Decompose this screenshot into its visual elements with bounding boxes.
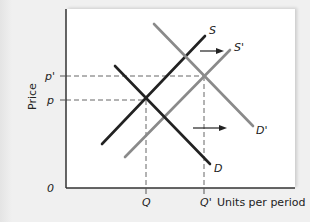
label-p-prime: p' <box>44 70 55 83</box>
label-q-prime: Q' <box>200 196 212 209</box>
x-axis-title: Units per period <box>217 196 305 209</box>
supply-shift-arrow-icon <box>200 48 224 54</box>
label-d: D <box>214 162 222 175</box>
label-s: S <box>209 24 216 37</box>
label-p: p <box>46 94 54 107</box>
label-s-prime: S' <box>234 41 244 54</box>
label-q: Q <box>142 196 151 209</box>
label-origin: 0 <box>47 182 54 195</box>
y-axis-title: Price <box>26 83 39 110</box>
label-d-prime: D' <box>256 124 268 137</box>
demand-shift-arrow-icon <box>193 125 227 131</box>
supply-demand-chart: S S' D D' p' p 0 Q Q' Units per period P… <box>0 0 310 222</box>
reference-lines <box>66 76 204 188</box>
